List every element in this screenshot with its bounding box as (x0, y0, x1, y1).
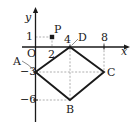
y-tick-label-minus6: −6 (20, 94, 36, 105)
origin-label: O (27, 48, 36, 59)
y-tick-label-1: 1 (26, 31, 33, 42)
axes (22, 7, 130, 122)
x-axis-label: x (121, 46, 127, 57)
y-tick-label-minus3: −3 (20, 66, 36, 77)
point-label-p: P (54, 24, 61, 35)
y-axis-label: y (25, 12, 31, 23)
y-axis-arrow-icon (33, 7, 38, 13)
point-label-b: B (66, 104, 74, 115)
x-tick-label-4: 4 (64, 34, 71, 45)
point-label-a: A (13, 56, 21, 67)
x-tick-label-8: 8 (101, 32, 108, 43)
point-label-d: D (78, 32, 87, 43)
point-label-c: C (107, 67, 115, 78)
x-tick-label-2: 2 (48, 49, 55, 60)
coordinate-geometry-figure: y x O 1 −3 −6 2 4 8 P D A B C (0, 0, 135, 129)
